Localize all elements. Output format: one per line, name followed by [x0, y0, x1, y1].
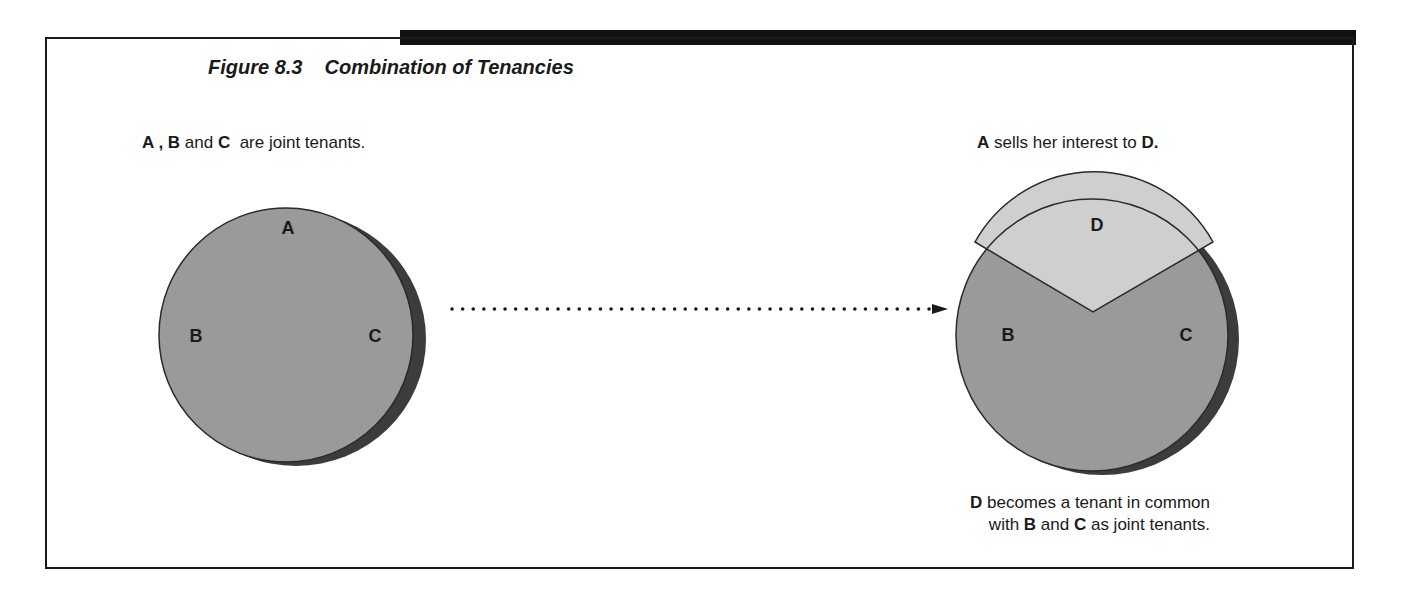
transfer-arrow	[452, 304, 948, 314]
label-b: B	[190, 326, 203, 346]
combined-tenancy-circle: D B C	[956, 172, 1239, 475]
label-d: D	[1091, 215, 1104, 235]
arrow-head-icon	[932, 304, 948, 314]
joint-tenancy-circle: A B C	[159, 208, 426, 466]
diagram-canvas: A B C D B C	[0, 0, 1418, 607]
label-b: B	[1002, 325, 1015, 345]
label-c: C	[369, 326, 382, 346]
label-c: C	[1180, 325, 1193, 345]
label-a: A	[282, 218, 295, 238]
